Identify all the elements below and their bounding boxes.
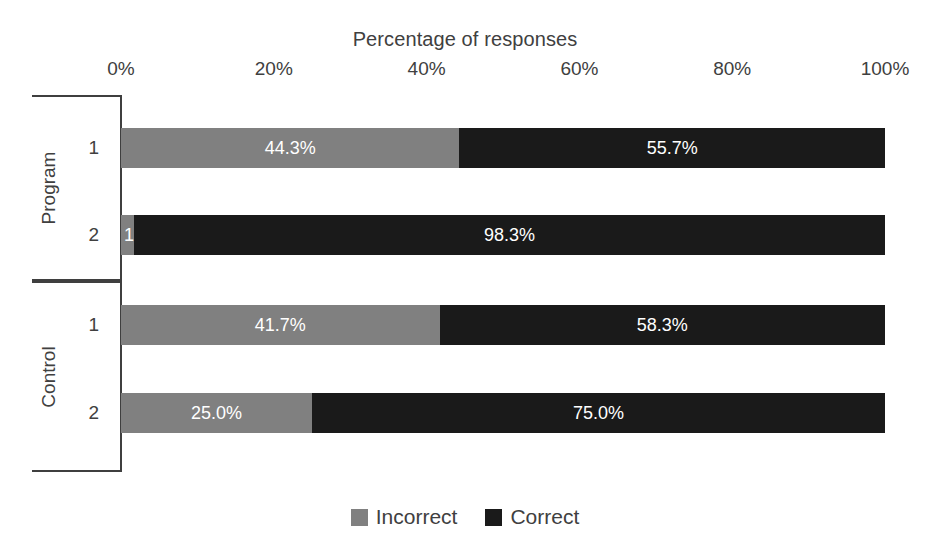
bar-segment-correct[interactable]: 75.0% (312, 393, 885, 433)
bar-segment-correct[interactable]: 55.7% (459, 128, 885, 168)
category-item-label: 2 (88, 402, 99, 424)
category-group-label-text: Program (38, 152, 60, 225)
legend-swatch-icon (351, 509, 368, 526)
x-axis-tick-label: 80% (713, 58, 751, 80)
bar-row[interactable]: 41.7%58.3% (121, 305, 885, 345)
category-group-label: Control (32, 281, 66, 472)
x-axis-tick-label: 40% (408, 58, 446, 80)
stacked-bar-chart: Percentage of responses 0%20%40%60%80%10… (0, 0, 930, 558)
bar-row[interactable]: 25.0%75.0% (121, 393, 885, 433)
bar-segment-value-label: 44.3% (265, 139, 316, 157)
category-item-label: 2 (88, 224, 99, 246)
bar-row[interactable]: 1.7%98.3% (121, 215, 885, 255)
category-item-label: 1 (88, 314, 99, 336)
bar-segment-correct[interactable]: 98.3% (134, 215, 885, 255)
bar-segment-value-label: 75.0% (573, 404, 624, 422)
legend-label: Incorrect (376, 505, 458, 529)
plot-area: 44.3%55.7%1.7%98.3%41.7%58.3%25.0%75.0% (121, 95, 885, 472)
bar-segment-value-label: 55.7% (647, 139, 698, 157)
category-group-control: Control (32, 281, 121, 472)
category-item-label: 1 (88, 137, 99, 159)
bar-segment-value-label: 41.7% (255, 316, 306, 334)
bar-row[interactable]: 44.3%55.7% (121, 128, 885, 168)
chart-axis-title: Percentage of responses (0, 28, 930, 51)
bar-segment-correct[interactable]: 58.3% (440, 305, 885, 345)
bar-segment-value-label: 25.0% (191, 404, 242, 422)
chart-legend: IncorrectCorrect (0, 500, 930, 534)
bar-segment-value-label: 58.3% (637, 316, 688, 334)
x-axis-tick-label: 100% (861, 58, 910, 80)
bar-segment-incorrect[interactable]: 25.0% (121, 393, 312, 433)
category-group-program: Program (32, 95, 121, 281)
category-group-label: Program (32, 95, 66, 281)
bar-segment-incorrect[interactable]: 44.3% (121, 128, 459, 168)
x-axis-tick-label: 20% (255, 58, 293, 80)
bar-segment-incorrect[interactable]: 1.7% (121, 215, 134, 255)
category-group-label-text: Control (38, 346, 60, 407)
category-axis: Program12Control12 (0, 95, 121, 472)
legend-swatch-icon (485, 509, 502, 526)
bar-segment-value-label: 98.3% (484, 226, 535, 244)
x-axis-tick-label: 60% (560, 58, 598, 80)
legend-label: Correct (510, 505, 579, 529)
x-axis-tick-label: 0% (107, 58, 134, 80)
legend-item-correct[interactable]: Correct (485, 505, 579, 529)
legend-item-incorrect[interactable]: Incorrect (351, 505, 458, 529)
x-axis-tick-labels: 0%20%40%60%80%100% (0, 58, 930, 84)
bar-segment-incorrect[interactable]: 41.7% (121, 305, 440, 345)
